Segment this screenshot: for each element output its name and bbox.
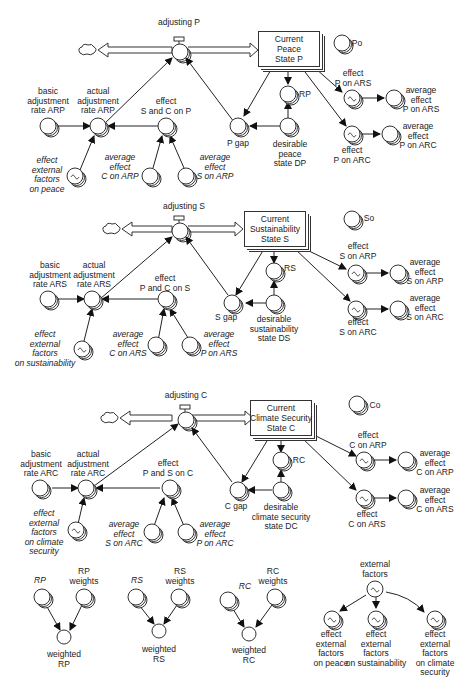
label-s-gap: S gap <box>215 313 237 323</box>
label-rp-input: RP <box>34 576 46 586</box>
label-avg-c-on-ars: average effect C on ARS <box>109 330 146 359</box>
label-basic-rate-arc: basic adjustment rate ARC <box>20 450 62 479</box>
label-effect-s-c-on-p: effect S and C on P <box>141 97 192 116</box>
label-effect-p-on-ars: effect P on ARS <box>335 69 372 88</box>
label-avg-c-on-ars: average effect C on ARS <box>416 486 453 515</box>
label-weighted-rs: weighted RS <box>142 645 176 664</box>
label-avg-p-on-arc: average effect P on ARC <box>196 520 233 549</box>
label-actual-rate-ars: actual adjustment rate ARS <box>73 261 115 290</box>
label-actual-rate-arc: actual adjustment rate ARC <box>67 450 109 479</box>
label-effect-external-sustainability: effect external factors on sustainabilit… <box>15 330 75 368</box>
label-basic-rate-arp: basic adjustment rate ARP <box>27 87 69 116</box>
label-p-gap: P gap <box>227 139 249 149</box>
label-effect-external-climate: effect external factors on climate secur… <box>25 509 64 557</box>
label-effect-p-c-on-s: effect P and C on S <box>140 274 190 293</box>
label-avg-s-on-arc: average effect S on ARC <box>105 520 142 549</box>
weighting-section <box>34 589 286 644</box>
label-avg-c-on-arp: average effect C on ARP <box>416 449 453 478</box>
label-effect-p-s-on-c: effect P and S on C <box>143 459 193 478</box>
label-ext-on-climate: effect external factors on climate secur… <box>416 630 455 678</box>
label-rs-input: RS <box>131 576 143 586</box>
label-actual-rate-arp: actual adjustment rate ARP <box>77 87 119 116</box>
label-rc: RC <box>293 456 305 466</box>
external-factors-section <box>324 581 446 630</box>
label-effect-external-peace: effect external factors on peace <box>30 156 65 194</box>
label-avg-s-on-arc: average effect S on ARC <box>406 294 443 323</box>
label-effect-p-on-arc: effect P on ARC <box>333 146 370 165</box>
label-avg-s-on-arp: average effect S on ARP <box>407 258 444 287</box>
flow-adjusting-p: adjusting P <box>158 18 200 28</box>
label-rp: RP <box>299 90 311 100</box>
stock-current-climate-security-state[interactable]: Current Climate Security State C <box>250 400 312 436</box>
stock-current-sustainability-state[interactable]: Current Sustainability State S <box>244 211 306 247</box>
label-avg-s-on-arp: average effect S on ARP <box>196 153 233 182</box>
label-rp-weights: RP weights <box>70 567 99 586</box>
label-desirable-climate: desirable climate security state DC <box>252 503 311 532</box>
label-effect-c-on-arp: effect C on ARP <box>349 431 386 450</box>
flow-adjusting-c: adjusting C <box>165 391 208 401</box>
label-po: Po <box>352 39 362 49</box>
flow-adjusting-s: adjusting S <box>163 202 205 212</box>
label-rc-input: RC <box>239 582 251 592</box>
label-rs-weights: RS weights <box>166 567 195 586</box>
label-desirable-sustainability: desirable sustainability state DS <box>250 315 299 344</box>
label-avg-c-on-arp: average effect C on ARP <box>101 153 138 182</box>
label-weighted-rc: weighted RC <box>232 646 266 665</box>
label-so: So <box>364 214 374 224</box>
stock-current-peace-state[interactable]: Current Peace State P <box>258 31 320 67</box>
label-effect-s-on-arc: effect S on ARC <box>339 318 376 337</box>
label-desirable-peace: desirable peace state DP <box>273 140 308 169</box>
label-rc-weights: RC weights <box>259 567 288 586</box>
label-external-factors: external factors <box>360 560 390 579</box>
label-avg-p-on-ars: average effect P on ARS <box>403 86 440 115</box>
label-effect-c-on-ars: effect C on ARS <box>348 510 385 529</box>
label-c-gap: C gap <box>225 502 248 512</box>
label-basic-rate-ars: basic adjustment rate ARS <box>29 261 71 290</box>
label-ext-on-peace: effect external factors on peace <box>314 630 349 668</box>
label-weighted-rp: weighted RP <box>47 650 81 669</box>
label-avg-p-on-ars: average effect P on ARS <box>201 330 238 359</box>
label-ext-on-sustainability: effect external factors on sustainabilit… <box>346 630 406 668</box>
label-co: Co <box>370 401 381 411</box>
label-avg-p-on-arc: average effect P on ARC <box>399 122 436 151</box>
label-effect-s-on-arp: effect S on ARP <box>340 242 377 261</box>
label-rs: RS <box>284 264 296 274</box>
